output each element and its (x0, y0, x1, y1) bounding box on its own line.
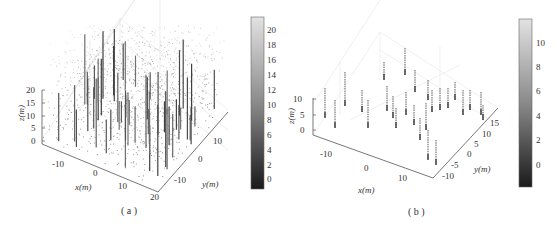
y-tick: 10 (213, 136, 223, 146)
z-tick: 0 (31, 136, 36, 146)
colorbar-tick: 6 (536, 87, 541, 96)
colorbar-tick: 14 (267, 71, 276, 80)
x-tick: 10 (118, 181, 128, 191)
z-tick: 10 (293, 94, 303, 104)
plot-a-canvas: 20 15 10 5 0 z(m) -10 0 10 20 x(m) -10 0… (0, 0, 280, 233)
colorbar-tick: 20 (267, 26, 276, 35)
colorbar-tick: 8 (267, 116, 272, 125)
z-axis-label: z(m) (16, 105, 26, 122)
x-tick: -10 (320, 149, 332, 159)
z-tick: 5 (31, 123, 36, 133)
y-tick: -10 (442, 171, 454, 181)
y-axis-label: y(m) (473, 164, 491, 174)
y-tick: 15 (490, 118, 500, 128)
x-tick: 20 (150, 192, 160, 202)
z-tick: 5 (300, 110, 305, 120)
colorbar-tick: 4 (536, 112, 541, 121)
colorbar-b (519, 19, 532, 187)
colorbar-tick: 6 (267, 131, 272, 140)
z-tick: 10 (26, 111, 36, 121)
panel-b: 10 5 0 z(m) -10 0 10 x(m) 15 10 5 0 -5 -… (280, 0, 558, 233)
x-tick: 0 (93, 168, 98, 178)
y-tick: -5 (451, 160, 459, 170)
caption-b: ( b ) (408, 206, 425, 217)
y-tick: -10 (174, 175, 186, 185)
y-tick: 10 (482, 129, 492, 139)
z-axis-label: z(m) (286, 108, 296, 125)
colorbar-tick: 12 (267, 86, 276, 95)
y-tick: 0 (198, 154, 203, 164)
colorbar-tick: 10 (536, 39, 545, 48)
colorbar-tick: 2 (536, 136, 541, 145)
x-axis-label: x(m) (357, 185, 375, 195)
y-axis-label: y(m) (201, 179, 219, 189)
colorbar-tick: 0 (267, 175, 272, 184)
x-axis-label: x(m) (74, 182, 92, 192)
z-tick: 15 (26, 98, 36, 108)
panel-a: 20 15 10 5 0 z(m) -10 0 10 20 x(m) -10 0… (0, 0, 280, 233)
colorbar-tick: 18 (267, 41, 276, 50)
colorbar-tick: 10 (267, 101, 276, 110)
colorbar-tick: 2 (267, 161, 272, 170)
colorbar-tick: 8 (536, 63, 541, 72)
caption-a: ( a ) (121, 205, 137, 216)
plot-b-canvas: 10 5 0 z(m) -10 0 10 x(m) 15 10 5 0 -5 -… (280, 0, 558, 233)
colorbar-tick: 16 (267, 56, 276, 65)
x-tick: 10 (398, 173, 408, 183)
y-tick: 5 (474, 139, 479, 149)
colorbar-tick: 0 (536, 161, 541, 170)
z-tick: 0 (300, 125, 305, 135)
colorbar-a (251, 17, 264, 189)
x-tick: -10 (52, 159, 64, 169)
y-tick: 0 (467, 149, 472, 159)
colorbar-tick: 4 (267, 146, 272, 155)
z-tick: 20 (26, 85, 36, 95)
x-tick: 0 (364, 163, 369, 173)
